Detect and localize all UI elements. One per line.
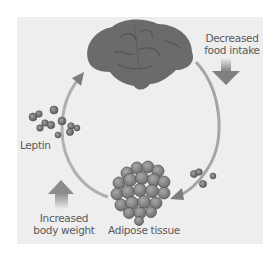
label-line-2: body weight <box>32 224 96 236</box>
adipose-tissue-icon <box>111 161 170 226</box>
adipose-tissue-label: Adipose tissue <box>104 224 184 236</box>
brain-icon <box>87 19 193 89</box>
adipose-text: Adipose tissue <box>108 224 180 236</box>
label-line-1: Increased <box>32 212 96 224</box>
decrease-arrow-icon <box>212 58 240 85</box>
arrowhead-icon <box>170 188 184 200</box>
cycle-arrow-right <box>170 62 219 200</box>
label-line-2: food intake <box>200 44 264 56</box>
label-line-1: Decreased <box>200 32 264 44</box>
increase-arrow-icon <box>48 180 74 209</box>
leptin-molecules-icon <box>29 106 80 138</box>
increased-body-weight-label: Increased body weight <box>32 212 96 236</box>
leptin-label: Leptin <box>20 139 60 151</box>
leptin-text: Leptin <box>20 139 51 151</box>
decreased-food-intake-label: Decreased food intake <box>200 32 264 56</box>
